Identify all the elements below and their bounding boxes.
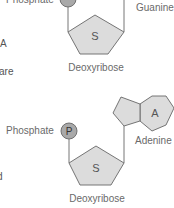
phosphate-label: Phosphate [6, 0, 54, 5]
sugar-symbol: S [92, 162, 99, 174]
base-symbol: A [151, 107, 159, 119]
bottom-nucleotide: A Adenine Phosphate P S Deoxyribose [6, 96, 174, 204]
margin-text-fragment: A [0, 38, 7, 49]
nucleotide-diagram: A are d Phosphate S Deoxyribose Guanine … [0, 0, 174, 208]
deoxyribose-label: Deoxyribose [68, 62, 124, 73]
top-nucleotide: Phosphate S Deoxyribose Guanine [6, 0, 174, 73]
adenine-pentagon [113, 97, 140, 126]
phosphate-circle [60, 0, 76, 7]
phosphate-label: Phosphate [6, 125, 54, 136]
margin-text-fragment: are [0, 66, 14, 77]
guanine-label: Guanine [136, 2, 174, 13]
adenine-label: Adenine [135, 135, 172, 146]
phosphate-symbol: P [66, 126, 73, 137]
deoxyribose-label: Deoxyribose [69, 193, 125, 204]
margin-text-fragment: d [0, 171, 3, 182]
sugar-symbol: S [91, 30, 98, 42]
